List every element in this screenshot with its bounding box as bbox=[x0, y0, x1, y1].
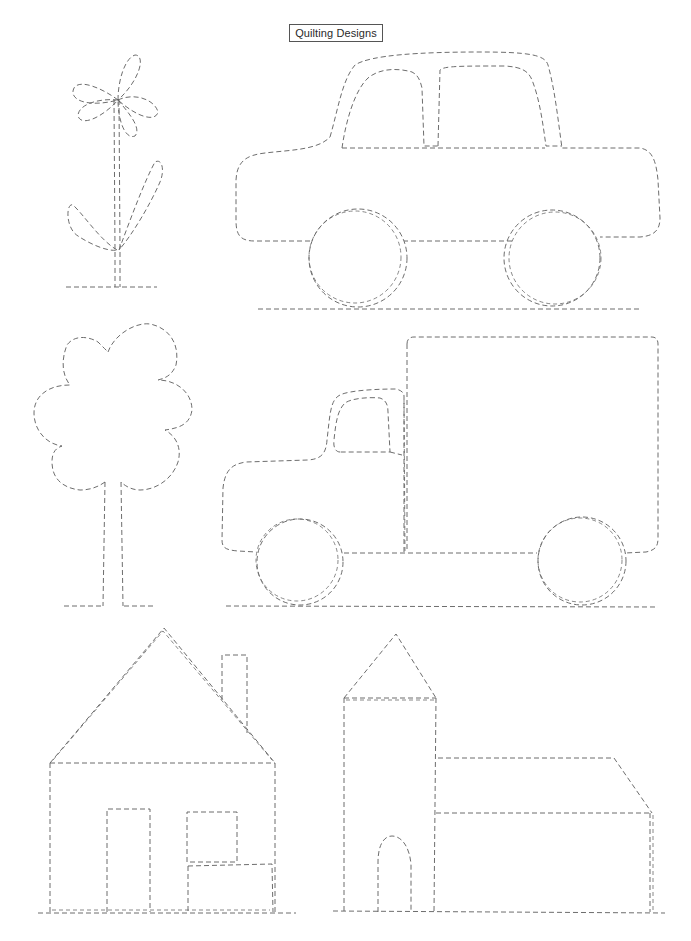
truck-pattern bbox=[222, 337, 658, 607]
quilting-patterns-canvas bbox=[0, 0, 691, 941]
tree-pattern bbox=[34, 324, 192, 606]
house-pattern bbox=[38, 628, 296, 913]
flower-pattern bbox=[66, 55, 162, 287]
car-pattern bbox=[236, 52, 660, 309]
church-pattern bbox=[333, 634, 665, 913]
